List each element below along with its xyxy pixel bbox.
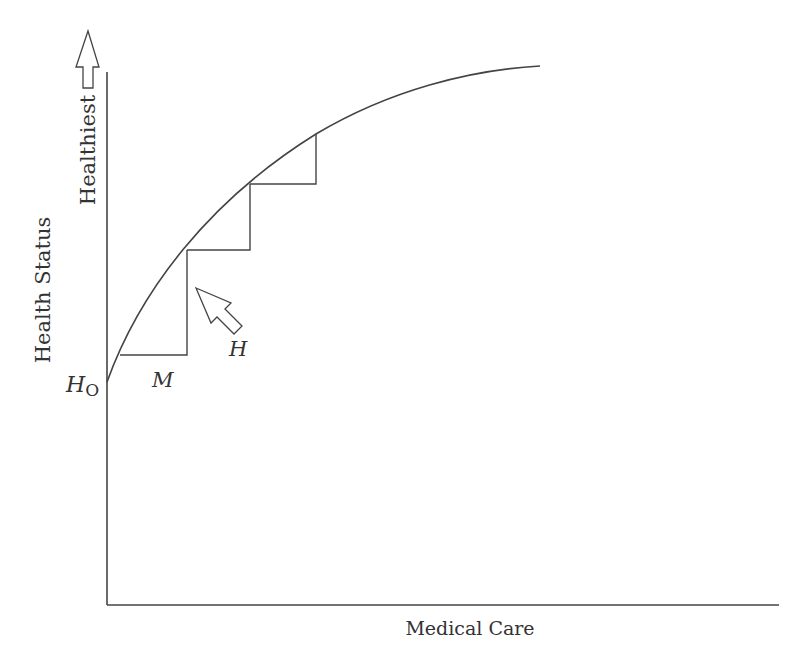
health-production-curve: [107, 66, 540, 382]
health-production-diagram: Health Status Healthiest Medical Care HO…: [0, 0, 808, 667]
step-2: [187, 184, 250, 250]
y-axis-label: Health Status: [31, 217, 55, 364]
x-axis-label: Medical Care: [405, 617, 534, 639]
h0-sub: O: [85, 380, 99, 400]
healthiest-arrow-icon: [76, 31, 99, 88]
step-3: [250, 134, 316, 184]
step-1: [120, 250, 187, 355]
h0-main: H: [65, 372, 86, 397]
h0-label: HO: [65, 372, 99, 400]
healthiest-label: Healthiest: [76, 94, 100, 205]
h-label: H: [228, 337, 248, 361]
m-label: M: [151, 368, 174, 392]
pointer-arrow-icon: [196, 288, 242, 334]
diagram-svg: Health Status Healthiest Medical Care HO…: [0, 0, 808, 667]
